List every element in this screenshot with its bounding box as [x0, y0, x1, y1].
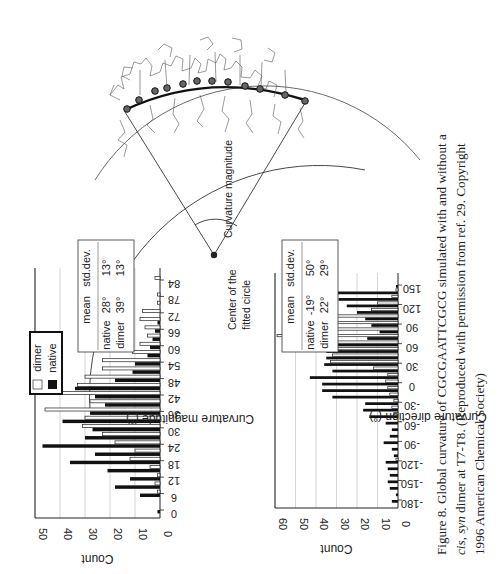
stats-row-label: native — [100, 320, 112, 349]
stats-header-mean: mean — [80, 296, 92, 324]
x-tick-label: 12 — [168, 475, 180, 487]
bar-native — [386, 461, 398, 464]
bar-native — [324, 363, 398, 366]
bar-native — [332, 292, 398, 295]
y-tick-label: 50 — [37, 528, 49, 540]
bar-native — [392, 500, 398, 503]
bar-native — [332, 396, 398, 399]
y-tick-label: 0 — [162, 531, 174, 537]
x-tick-label: 0 — [171, 508, 177, 520]
bar-native — [148, 354, 161, 357]
bar-native — [392, 428, 398, 431]
y-tick-label: 40 — [318, 518, 330, 530]
bar-native — [388, 480, 398, 483]
bar-native — [365, 402, 398, 405]
y-tick-label: 30 — [339, 518, 351, 530]
legend-swatch-dimer — [33, 380, 42, 389]
bar-dimer — [135, 449, 160, 452]
x-tick-label: 66 — [168, 327, 180, 339]
bar-native — [390, 435, 398, 438]
bar-dimer — [90, 400, 160, 403]
label-center-line2: fitted circle — [240, 280, 252, 330]
bar-native — [396, 285, 398, 288]
bar-dimer — [388, 387, 398, 389]
x-tick-label: 90 — [406, 322, 418, 334]
bar-native — [357, 311, 398, 314]
bar-dimer — [330, 360, 398, 362]
y-tick-label: 10 — [137, 528, 149, 540]
bar-dimer — [150, 465, 160, 468]
bar-native — [310, 376, 398, 379]
bar-dimer — [373, 367, 398, 369]
caption-italic: cis, syn — [453, 516, 468, 555]
label-curvature-magnitude: Curvature magnitude — [222, 140, 234, 238]
y-tick-label: 50 — [298, 518, 310, 530]
bar-native — [115, 379, 160, 382]
bar-dimer — [155, 277, 160, 280]
bar-native — [130, 477, 160, 480]
bar-native — [85, 436, 160, 439]
bar-dimer — [158, 490, 161, 493]
bar-native — [371, 324, 398, 327]
x-tick-label: 84 — [168, 278, 180, 290]
x-tick-label: 0 — [409, 381, 415, 393]
x-tick-label: -180 — [401, 498, 423, 510]
bar-native — [322, 383, 398, 386]
y-tick-label: 20 — [359, 518, 371, 530]
bar-dimer — [115, 441, 160, 444]
y-tick-label: 40 — [62, 528, 74, 540]
bar-dimer — [145, 326, 160, 329]
stats-value: 22° — [318, 297, 330, 314]
x-tick-label: 18 — [168, 459, 180, 471]
bar-dimer — [390, 393, 398, 395]
bar-native — [140, 494, 160, 497]
bar-native — [70, 461, 160, 464]
y-axis-title: Count — [320, 542, 353, 556]
bar-native — [322, 389, 398, 392]
x-tick-label: 24 — [168, 442, 180, 454]
legend-label-native: native — [46, 343, 58, 372]
stats-value: 28° — [100, 297, 112, 314]
bar-native — [95, 453, 160, 456]
y-tick-label: 10 — [380, 518, 392, 530]
bar-native — [155, 329, 160, 332]
bar-native — [133, 370, 161, 373]
bar-dimer — [130, 457, 160, 460]
y-tick-label: 30 — [87, 528, 99, 540]
bar-native — [326, 357, 398, 360]
x-tick-label: 60 — [168, 344, 180, 356]
bar-native — [108, 469, 161, 472]
stats-value: 13° — [114, 260, 126, 277]
bar-dimer — [155, 482, 160, 485]
bar-dimer — [158, 293, 161, 296]
bar-native — [135, 362, 160, 365]
bar-dimer — [78, 383, 161, 386]
x-tick-label: 54 — [168, 360, 180, 372]
bar-dimer — [103, 359, 161, 362]
stats-header-std: std.dev. — [284, 249, 296, 287]
x-tick-label: -120 — [401, 459, 423, 471]
legend-label-dimer: dimer — [31, 344, 43, 372]
bar-native — [390, 487, 398, 490]
bar-native — [388, 467, 398, 470]
bar-dimer — [45, 408, 160, 411]
bar-dimer — [133, 350, 161, 353]
stats-value: 50° — [304, 260, 316, 277]
bar-native — [105, 403, 160, 406]
bar-dimer — [103, 433, 161, 436]
bar-native — [75, 387, 160, 390]
x-tick-label: 48 — [168, 377, 180, 389]
bar-dimer — [388, 373, 398, 375]
bar-native — [158, 510, 161, 513]
bar-native — [95, 395, 160, 398]
bar-native — [380, 331, 398, 334]
x-tick-label: 30 — [406, 361, 418, 373]
bar-dimer — [392, 295, 398, 297]
bar-dimer — [396, 458, 398, 460]
bar-native — [390, 474, 398, 477]
x-tick-label: -90 — [404, 439, 420, 451]
label-center-line1: Center of the — [226, 269, 238, 330]
caption-line-2: cis, syn dimer at T7-T8. (Reproduced wit… — [451, 134, 470, 555]
x-tick-label: 30 — [168, 426, 180, 438]
bar-native — [153, 338, 161, 341]
